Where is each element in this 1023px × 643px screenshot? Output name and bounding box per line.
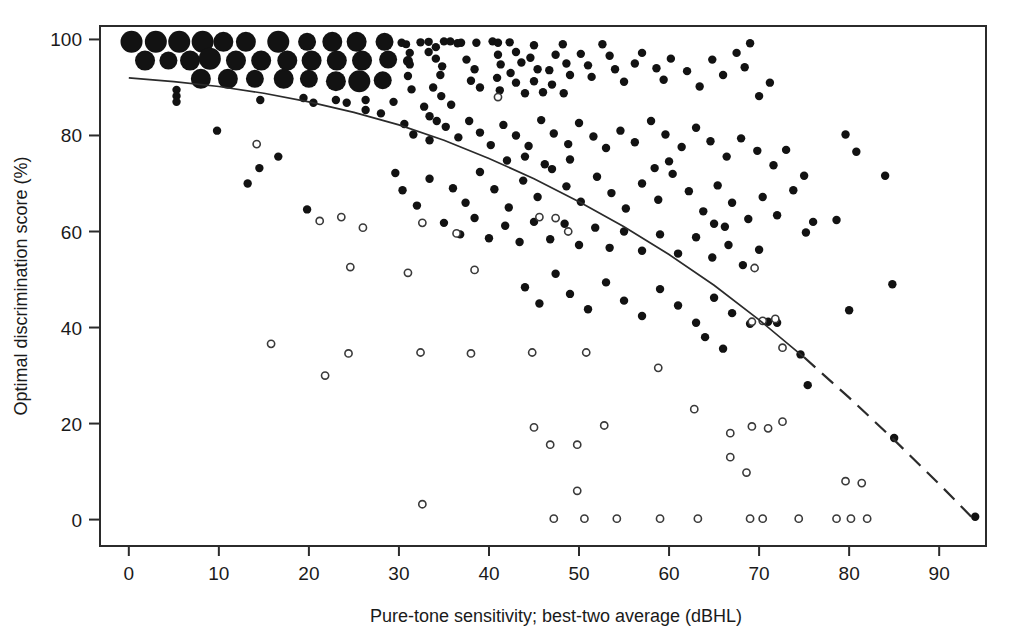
data-point-filled [971,513,979,521]
series-subgroup-open [253,93,871,522]
data-point-filled [213,126,221,134]
plot-frame [100,26,986,546]
data-point-filled [589,132,597,140]
data-point-filled [845,306,853,314]
data-point-filled [620,296,628,304]
data-point-filled [852,148,860,156]
data-point-filled [541,160,549,168]
data-point-open [417,349,424,356]
data-point-filled [888,280,896,288]
data-point-filled [476,83,484,91]
data-point-filled [530,77,538,85]
data-point-filled [593,173,601,181]
data-point-filled [548,80,556,88]
data-point-filled [487,141,495,149]
data-point-filled [512,78,520,86]
data-point-filled [454,133,462,141]
data-point-filled [437,92,445,100]
data-point-filled [530,41,538,49]
data-point-filled [654,196,662,204]
data-point-filled [424,38,432,46]
data-point-filled [584,61,592,69]
data-point-open [691,406,698,413]
data-point-filled [551,270,559,278]
data-point-filled [343,99,351,107]
data-point-open [583,349,590,356]
data-point-filled [769,161,777,169]
data-point-filled [425,136,433,144]
data-point-filled [559,40,567,48]
data-point-filled [732,49,740,57]
data-point-filled [605,52,613,60]
data-point-filled [485,234,493,242]
data-point-open [601,422,608,429]
data-point-filled [719,344,727,352]
data-point-filled [802,228,810,236]
data-point-filled [521,89,529,97]
data-point-open [772,315,779,322]
data-point-filled [661,130,669,138]
data-point-open [748,318,755,325]
data-point-filled [755,246,763,254]
y-axis-tick-marks [89,39,100,519]
data-point-open [552,214,559,221]
x-tick-label: 60 [658,563,679,584]
data-point-filled [420,102,428,110]
data-point-filled [524,142,532,150]
data-point-filled [591,223,599,231]
data-point-filled [638,49,646,57]
data-point-filled [406,49,414,57]
data-point-open [529,349,536,356]
data-point-filled [535,299,543,307]
data-point-filled [526,53,534,61]
data-point-open [547,441,554,448]
data-point-open [694,515,701,522]
data-point-filled [728,198,736,206]
data-point-open [347,263,354,270]
data-point-filled [121,31,143,53]
data-point-filled [562,59,570,67]
data-point-filled [710,294,718,302]
data-point-open [779,418,786,425]
data-point-filled [243,179,251,187]
data-point-filled [277,51,297,71]
data-point-filled [298,33,316,51]
data-point-filled [416,38,424,46]
data-point-filled [722,152,730,160]
x-axis-title: Pure-tone sensitivity; best-two average … [370,606,742,626]
data-point-filled [740,63,748,71]
data-point-filled [505,38,513,46]
data-point-filled [332,96,340,104]
data-point-filled [521,283,529,291]
data-point-filled [656,285,664,293]
data-point-filled [501,222,509,230]
data-point-open [267,340,274,347]
data-point-filled [708,55,716,63]
data-point-filled [519,176,527,184]
data-point-filled [467,77,475,85]
data-point-filled [737,134,745,142]
x-tick-label: 30 [388,563,409,584]
data-point-filled [348,70,370,92]
data-point-open [655,364,662,371]
data-point-filled [551,51,559,59]
data-point-filled [494,39,502,47]
data-point-filled [470,214,478,222]
data-point-filled [512,48,520,56]
data-point-filled [685,187,693,195]
data-point-filled [322,32,342,52]
data-point-filled [374,71,392,89]
x-tick-label: 90 [929,563,950,584]
data-point-filled [493,74,501,82]
data-point-filled [674,249,682,257]
data-point-filled [550,129,558,137]
data-point-filled [710,220,718,228]
data-point-filled [566,71,574,79]
data-point-filled [713,181,721,189]
data-point-open [322,372,329,379]
data-point-filled [598,40,606,48]
data-point-open [530,424,537,431]
data-point-filled [447,101,455,109]
data-point-filled [465,117,473,125]
data-point-filled [274,152,282,160]
